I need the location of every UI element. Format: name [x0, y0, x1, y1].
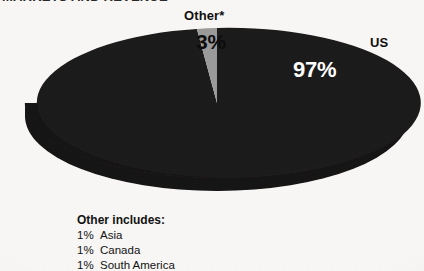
footnote-item-pct: 1%: [77, 228, 100, 243]
pie-chart-figure: MARKETS AND REVENUE Other* U: [0, 0, 424, 271]
footnote-item-name: South America: [100, 259, 175, 271]
footnote-item-name: Asia: [100, 229, 122, 241]
footnote-item: 1%South America: [77, 258, 175, 271]
cropped-title-text: MARKETS AND REVENUE: [0, 0, 424, 3]
footnote-item: 1%Canada: [77, 243, 175, 258]
slice-label-other: Other*: [184, 8, 224, 23]
footnote-heading: Other includes:: [77, 213, 175, 228]
pie-slice-us: [37, 28, 421, 178]
footnote-item-pct: 1%: [77, 258, 100, 271]
slice-label-us: US: [370, 35, 388, 50]
slice-value-us: 97%: [293, 57, 336, 83]
cropped-title-fragment: MARKETS AND REVENUE: [0, 0, 424, 4]
footnote-item-pct: 1%: [77, 243, 100, 258]
footnote-item-name: Canada: [100, 244, 140, 256]
footnote-item: 1%Asia: [77, 228, 175, 243]
footnote-block: Other includes: 1%Asia 1%Canada 1%South …: [77, 213, 175, 271]
slice-value-other: 3%: [196, 30, 226, 54]
